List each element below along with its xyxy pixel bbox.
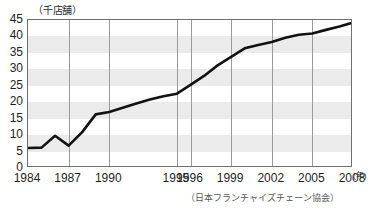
x-tick-1987: 1987	[54, 172, 81, 185]
x-tick-1996: 1996	[176, 172, 203, 185]
x-tick-1984: 1984	[14, 172, 41, 185]
x-tick-1990: 1990	[95, 172, 122, 185]
x-tick-2005: 2005	[298, 172, 325, 185]
x-axis-unit-label: (年)	[353, 169, 366, 180]
source-note: （日本フランチャイズチェーン協会）	[186, 191, 339, 204]
x-axis-tick-labels: 198419871990199519961999200220052008	[0, 0, 371, 208]
x-tick-2002: 2002	[257, 172, 284, 185]
x-tick-1999: 1999	[217, 172, 244, 185]
chart-container: （千店舗） 454035302520151050 198419871990199…	[0, 0, 371, 208]
